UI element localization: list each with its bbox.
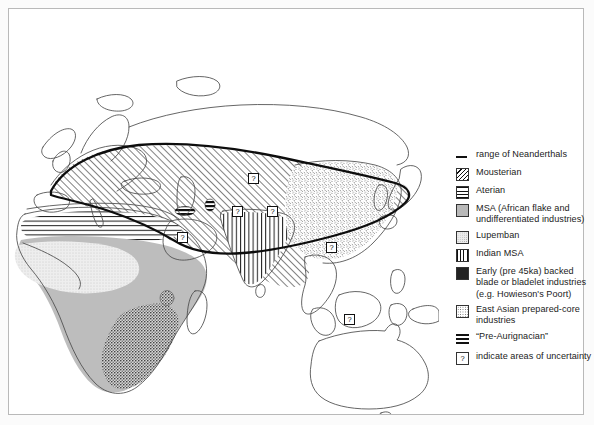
map-legend: range of Neanderthals Mousterian Aterian… [456, 149, 594, 369]
legend-label: Aterian [476, 185, 505, 196]
neanderthal-range-line-icon [456, 150, 469, 163]
map-svg [9, 9, 439, 414]
coastline-indochina [302, 255, 337, 314]
pre-aurignacian-region-zagros [205, 199, 215, 211]
thick-bar-swatch-icon [456, 333, 469, 344]
coastline-tasmania [379, 412, 392, 414]
coastline-arctic-islands-2 [97, 95, 133, 112]
legend-label: MSA (African flake and undifferentiated … [476, 203, 594, 226]
coastline-sulawesi [389, 303, 407, 325]
coastline-australia [310, 324, 428, 409]
legend-label: Early (pre 45ka) backed blade or bladele… [476, 266, 594, 300]
legend-item-indian-msa: Indian MSA [456, 248, 594, 262]
legend-item-msa: MSA (African flake and undifferentiated … [456, 203, 594, 226]
legend-item-pre-aurignacian: “Pre-Aurignacian” [456, 331, 594, 344]
legend-label: “Pre-Aurignacian” [476, 331, 548, 342]
legend-label: range of Neanderthals [476, 149, 567, 160]
coastline-philippines [391, 269, 405, 293]
uncertainty-marker-southeast-asia: ? [344, 314, 355, 325]
legend-item-east-asian-prepared-core: East Asian prepared-core industries [456, 304, 594, 327]
solid-gray-swatch-icon [456, 204, 469, 217]
coastline-malay-borneo [335, 292, 381, 328]
howiesons-poort-patch-east-africa [160, 291, 174, 306]
dense-stipple-swatch-icon [456, 267, 469, 280]
legend-item-mousterian: Mousterian [456, 167, 594, 181]
uncertainty-marker-arabia: ? [177, 232, 188, 243]
legend-label: East Asian prepared-core industries [476, 304, 594, 327]
light-stipple-swatch-icon [456, 231, 469, 244]
figure-frame: ? ? ? ? ? ? range of Neanderthals Mouste… [8, 8, 584, 415]
world-map: ? ? ? ? ? ? [9, 9, 439, 414]
legend-label: Lupemban [476, 230, 519, 241]
legend-item-lupemban: Lupemban [456, 230, 594, 244]
coastline-new-guinea [409, 306, 439, 324]
horizontal-hatch-swatch-icon [456, 186, 469, 199]
uncertainty-marker-central-asia: ? [248, 173, 259, 184]
legend-item-uncertainty: ? indicate areas of uncertainty [456, 351, 594, 365]
question-box-swatch-icon: ? [456, 352, 469, 365]
coastline-sri-lanka [256, 284, 266, 297]
uncertainty-marker-india-west: ? [232, 206, 243, 217]
legend-label: Mousterian [476, 167, 522, 178]
legend-label: Indian MSA [476, 248, 524, 259]
vertical-hatch-swatch-icon [456, 249, 469, 262]
legend-item-range-of-neanderthals: range of Neanderthals [456, 149, 594, 163]
legend-label: indicate areas of uncertainty [476, 351, 591, 362]
uncertainty-marker-east-asia: ? [326, 242, 337, 253]
map-figure-page: ? ? ? ? ? ? range of Neanderthals Mouste… [0, 0, 594, 425]
coastline-arctic-islands [177, 77, 220, 96]
speckle-swatch-icon [456, 305, 469, 318]
coastline-greenland-edge [42, 129, 76, 159]
diagonal-hatch-swatch-icon [456, 168, 469, 181]
uncertainty-marker-india-east: ? [267, 206, 278, 217]
legend-item-early-backed-blade: Early (pre 45ka) backed blade or bladele… [456, 266, 594, 300]
legend-item-aterian: Aterian [456, 185, 594, 199]
